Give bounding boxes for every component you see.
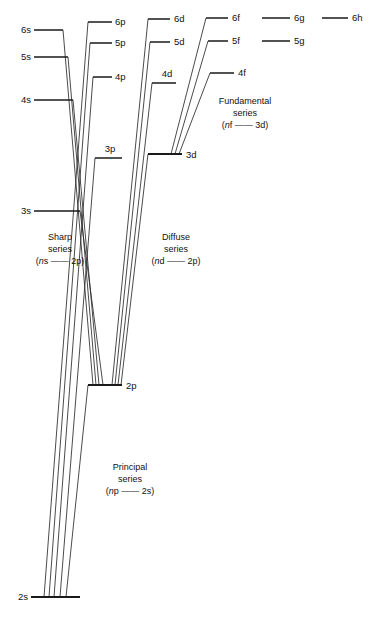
transition-lines-group xyxy=(44,18,210,597)
series-label-principal-line1: Principal xyxy=(113,462,148,472)
energy-level-label-6d: 6d xyxy=(174,13,185,24)
energy-level-diagram: 6s5s4s3s2s6p5p4p3p2p6d5d4d3d6f5f4f6g5g6h… xyxy=(0,0,378,617)
series-label-fundamental-line1: Fundamental xyxy=(219,96,272,106)
transition-line-4s-to-2p xyxy=(73,100,99,385)
transition-line-6p-to-2s xyxy=(44,22,88,597)
series-label-diffuse-notation: (nd —— 2p) xyxy=(151,256,200,266)
energy-level-label-3s: 3s xyxy=(21,205,31,216)
energy-level-label-6s: 6s xyxy=(21,24,31,35)
transition-line-4d-to-2p xyxy=(118,83,152,385)
energy-level-label-3d: 3d xyxy=(186,149,197,160)
energy-level-label-6h: 6h xyxy=(352,12,363,23)
energy-level-label-2s: 2s xyxy=(18,591,28,602)
series-label-sharp-line1: Sharp xyxy=(48,232,72,242)
energy-level-label-5s: 5s xyxy=(21,51,31,62)
series-label-fundamental-line2: series xyxy=(233,108,258,118)
energy-level-label-4s: 4s xyxy=(21,94,31,105)
energy-level-label-5f: 5f xyxy=(232,35,240,46)
energy-level-label-4d: 4d xyxy=(162,68,173,79)
energy-level-label-6g: 6g xyxy=(294,12,305,23)
series-label-diffuse-line2: series xyxy=(164,244,189,254)
grotrian-diagram-canvas: 6s5s4s3s2s6p5p4p3p2p6d5d4d3d6f5f4f6g5g6h… xyxy=(0,0,378,617)
series-label-fundamental: Fundamentalseries(nf —— 3d) xyxy=(219,96,272,130)
series-label-diffuse: Diffuseseries(nd —— 2p) xyxy=(151,232,200,266)
series-label-principal-line2: series xyxy=(118,474,143,484)
transition-line-4f-to-3d xyxy=(179,73,210,154)
energy-level-label-5g: 5g xyxy=(294,35,305,46)
energy-level-label-5p: 5p xyxy=(115,37,126,48)
energy-level-label-4p: 4p xyxy=(115,71,126,82)
transition-line-5f-to-3d xyxy=(175,41,208,154)
transition-line-5p-to-2s xyxy=(49,43,90,597)
series-label-sharp-notation: (ns —— 2p) xyxy=(36,256,85,266)
transition-line-5d-to-2p xyxy=(115,42,150,385)
transition-line-3d-to-2p xyxy=(121,154,148,385)
energy-level-label-2p: 2p xyxy=(126,380,137,391)
series-label-diffuse-line1: Diffuse xyxy=(162,232,190,242)
energy-level-label-6f: 6f xyxy=(232,12,240,23)
energy-level-label-4f: 4f xyxy=(238,67,246,78)
series-label-sharp: Sharpseries(ns —— 2p) xyxy=(36,232,85,266)
series-label-principal: Principalseries(np —— 2s) xyxy=(106,462,155,496)
energy-level-label-6p: 6p xyxy=(115,16,126,27)
series-label-principal-notation: (np —— 2s) xyxy=(106,486,155,496)
series-label-sharp-line2: series xyxy=(48,244,73,254)
energy-level-label-5d: 5d xyxy=(174,36,185,47)
energy-level-label-3p: 3p xyxy=(105,143,116,154)
transition-line-2p-to-2s xyxy=(66,385,88,597)
series-label-fundamental-notation: (nf —— 3d) xyxy=(222,120,269,130)
